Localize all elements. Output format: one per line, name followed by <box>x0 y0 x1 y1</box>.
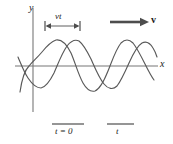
x-axis-label: x <box>160 59 164 69</box>
wave-diagram: y x vt v t = 0 t <box>0 0 173 144</box>
y-axis-label: y <box>29 3 33 13</box>
velocity-arrowhead <box>140 18 149 26</box>
velocity-vector-label: v <box>151 15 156 25</box>
vt-arrowhead-right <box>74 23 80 29</box>
velocity-arrow <box>110 18 149 26</box>
vt-dimension-marker <box>45 21 80 31</box>
vt-displacement-label: vt <box>55 12 62 21</box>
wave-initial-time-label: t = 0 <box>55 127 73 136</box>
vt-arrowhead-left <box>46 23 52 29</box>
wave-diagram-canvas <box>0 0 173 144</box>
wave-later-time-label: t <box>116 127 119 136</box>
